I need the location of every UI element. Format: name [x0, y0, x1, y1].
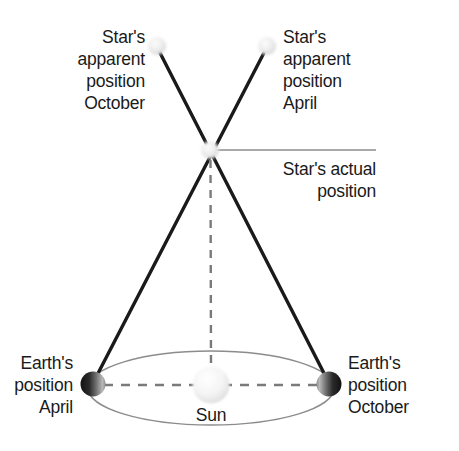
label-sun: Sun: [176, 404, 246, 426]
star-actual-dot: [201, 141, 219, 159]
label-earth-position-april: Earth's position April: [0, 352, 73, 418]
parallax-diagram: Star's apparent position October Star's …: [0, 0, 459, 451]
label-star-apparent-position-october: Star's apparent position October: [2, 26, 145, 114]
label-earth-position-october: Earth's position October: [348, 352, 459, 418]
earth-april-body: [81, 372, 106, 397]
sun-body: [193, 367, 230, 404]
label-star-apparent-position-april: Star's apparent position April: [283, 26, 451, 114]
earth-october-body: [317, 372, 342, 397]
label-star-actual-position: Star's actual position: [210, 158, 376, 202]
star-apparent-april-dot: [258, 37, 276, 55]
star-apparent-october-dot: [148, 37, 166, 55]
